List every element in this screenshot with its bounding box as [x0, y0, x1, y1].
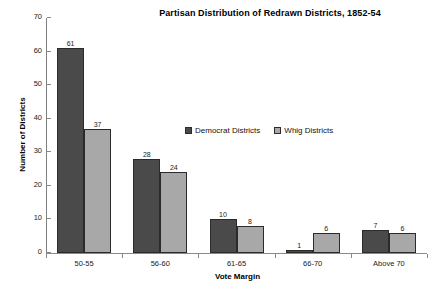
y-tick-mark	[47, 118, 51, 119]
y-tick: 0	[46, 252, 51, 253]
x-tick-mark	[275, 254, 276, 258]
bar-group: 16	[286, 18, 340, 253]
bar-value-label: 6	[400, 225, 404, 233]
x-tick-mark	[198, 254, 199, 258]
x-category-label: 61-65	[198, 259, 274, 268]
bar[interactable]: 37	[84, 129, 111, 253]
bar[interactable]: 7	[362, 230, 389, 254]
bar-value-label: 8	[248, 218, 252, 226]
y-tick-mark	[47, 185, 51, 186]
x-axis-title: Vote Margin	[45, 272, 430, 281]
bar[interactable]: 8	[237, 226, 264, 253]
y-tick-mark	[47, 252, 51, 253]
bar-value-label: 24	[170, 164, 178, 172]
legend-swatch-democrat-icon	[185, 127, 192, 134]
bar-value-label: 6	[324, 225, 328, 233]
bar[interactable]: 6	[389, 233, 416, 253]
y-tick-label: 70	[34, 12, 42, 21]
x-category-label: Above 70	[351, 259, 427, 268]
bar-chart: Partisan Distribution of Redrawn Distric…	[0, 0, 437, 293]
y-tick-label: 50	[34, 79, 42, 88]
y-tick: 10	[46, 218, 51, 219]
bar-value-label: 10	[219, 211, 227, 219]
y-axis-title: Number of Districts	[18, 75, 27, 195]
y-tick: 60	[46, 51, 51, 52]
chart-legend: Democrat Districts Whig Districts	[185, 126, 333, 135]
y-tick: 30	[46, 151, 51, 152]
legend-item-whig: Whig Districts	[274, 126, 333, 135]
bar[interactable]: 10	[210, 219, 237, 253]
y-tick-mark	[47, 17, 51, 18]
bar-value-label: 37	[94, 121, 102, 129]
bar-group: 108	[210, 18, 264, 253]
x-tick-mark	[122, 254, 123, 258]
y-tick-label: 10	[34, 213, 42, 222]
bar-group: 2824	[133, 18, 187, 253]
y-tick-mark	[47, 151, 51, 152]
plot-area: 010203040506070 613728241081676 50-5556-…	[46, 18, 427, 254]
y-tick-mark	[47, 51, 51, 52]
bar[interactable]: 61	[57, 48, 84, 253]
bar-value-label: 28	[143, 151, 151, 159]
bar[interactable]: 1	[286, 250, 313, 253]
y-tick-label: 30	[34, 146, 42, 155]
x-tick-mark	[427, 254, 428, 258]
y-tick-label: 0	[38, 247, 42, 256]
bar[interactable]: 6	[313, 233, 340, 253]
legend-item-democrat: Democrat Districts	[185, 126, 260, 135]
x-tick-mark	[351, 254, 352, 258]
y-tick: 20	[46, 185, 51, 186]
x-category-label: 50-55	[46, 259, 122, 268]
y-tick: 70	[46, 17, 51, 18]
legend-label-democrat: Democrat Districts	[195, 126, 260, 135]
bar-value-label: 61	[67, 40, 75, 48]
y-tick: 50	[46, 84, 51, 85]
bar[interactable]: 28	[133, 159, 160, 253]
y-tick: 40	[46, 118, 51, 119]
bar-group: 6137	[57, 18, 111, 253]
y-tick-label: 60	[34, 46, 42, 55]
legend-swatch-whig-icon	[274, 127, 281, 134]
y-tick-mark	[47, 218, 51, 219]
y-tick-mark	[47, 84, 51, 85]
bar-value-label: 1	[297, 242, 301, 250]
y-tick-label: 20	[34, 180, 42, 189]
x-category-label: 56-60	[122, 259, 198, 268]
bar-value-label: 7	[373, 222, 377, 230]
x-tick-mark	[46, 254, 47, 258]
x-category-label: 66-70	[275, 259, 351, 268]
y-tick-label: 40	[34, 113, 42, 122]
legend-label-whig: Whig Districts	[284, 126, 333, 135]
bar[interactable]: 24	[160, 172, 187, 253]
x-axis-line	[46, 253, 427, 254]
bar-group: 76	[362, 18, 416, 253]
